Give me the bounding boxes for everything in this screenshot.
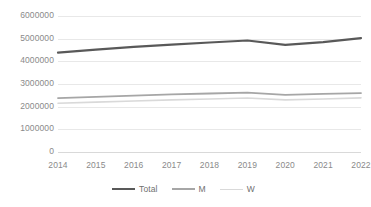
x-axis-tick-label: 2014 xyxy=(48,160,67,170)
series-line-m xyxy=(58,93,361,98)
y-axis-tick-label: 5000000 xyxy=(0,34,54,43)
legend-item-total[interactable]: Total xyxy=(112,184,157,194)
x-axis-tick-label: 2018 xyxy=(200,160,219,170)
y-axis-tick-label: 2000000 xyxy=(0,102,54,111)
legend-swatch-icon xyxy=(112,188,135,190)
x-axis-tick-label: 2019 xyxy=(238,160,257,170)
x-axis-tick-label: 2016 xyxy=(124,160,143,170)
x-axis-tick-label: 2017 xyxy=(162,160,181,170)
y-axis-tick-label: 0 xyxy=(0,147,54,156)
legend-swatch-icon xyxy=(220,189,243,190)
series-line-total xyxy=(58,38,361,53)
x-axis-tick-label: 2015 xyxy=(86,160,105,170)
x-axis-line xyxy=(58,152,361,153)
y-axis-tick-label: 6000000 xyxy=(0,11,54,20)
chart-legend: TotalMW xyxy=(0,184,367,194)
x-axis-tick-label: 2022 xyxy=(351,160,370,170)
legend-swatch-icon xyxy=(172,188,195,190)
legend-label: Total xyxy=(139,184,157,194)
y-axis-tick-label: 1000000 xyxy=(0,124,54,133)
x-axis-labels: 201420152016201720182019202020212022 xyxy=(58,160,361,174)
x-axis-tick-label: 2021 xyxy=(313,160,332,170)
legend-item-m[interactable]: M xyxy=(172,184,206,194)
series-line-w xyxy=(58,98,361,103)
x-axis-tick-label: 2020 xyxy=(276,160,295,170)
y-axis-tick-label: 3000000 xyxy=(0,79,54,88)
legend-label: M xyxy=(199,184,206,194)
y-axis-labels: 6000000500000040000003000000200000010000… xyxy=(0,0,54,170)
y-axis-tick-label: 4000000 xyxy=(0,56,54,65)
series-lines xyxy=(58,16,361,152)
legend-item-w[interactable]: W xyxy=(220,184,255,194)
legend-label: W xyxy=(247,184,255,194)
plot-area xyxy=(58,16,361,152)
